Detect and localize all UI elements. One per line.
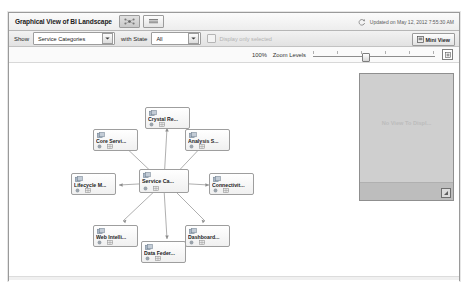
status-icon xyxy=(97,240,102,245)
graph-view-button[interactable] xyxy=(119,15,140,28)
grid-icon xyxy=(107,240,113,245)
grid-icon xyxy=(199,144,205,149)
graph-node-dashboards[interactable]: Dashboard... xyxy=(185,225,230,247)
fit-to-screen-icon xyxy=(445,52,451,58)
mini-view-empty-text: No View To Displ... xyxy=(360,120,453,126)
view-mode-buttons xyxy=(119,15,164,28)
status-bar xyxy=(9,276,459,280)
zoom-percent: 100% xyxy=(252,52,267,58)
status-icon xyxy=(75,188,80,193)
chevron-down-icon xyxy=(105,37,110,40)
chevron-down-icon xyxy=(191,37,196,40)
status-icon xyxy=(97,144,102,149)
graph-node-connectivity[interactable]: Connectivit... xyxy=(209,173,254,195)
graph-node-center-badges xyxy=(143,186,159,191)
graph-node-badges xyxy=(145,256,161,261)
graph-node-badges xyxy=(149,122,165,127)
grid-icon xyxy=(159,122,165,127)
zoom-slider[interactable] xyxy=(313,49,435,61)
graph-node-badges xyxy=(213,188,229,193)
grid-icon xyxy=(155,256,161,261)
graph-node-badges xyxy=(189,240,205,245)
page-title: Graphical View of BI Landscape xyxy=(15,18,112,25)
zoom-levels-label: Zoom Levels xyxy=(273,52,306,58)
status-icon xyxy=(145,256,150,261)
mini-view-panel[interactable]: No View To Displ... xyxy=(359,73,454,201)
zoom-slider-tick xyxy=(409,51,410,54)
titlebar-right-group: Updated on May 12, 2012 7:55:30 AM xyxy=(358,13,454,30)
list-view-button[interactable] xyxy=(143,15,164,28)
zoom-slider-thumb[interactable] xyxy=(362,53,370,62)
zoom-slider-track xyxy=(313,56,435,57)
graph-node-center[interactable]: Service Ca... xyxy=(139,169,189,193)
grid-icon xyxy=(199,240,205,245)
state-select[interactable]: All xyxy=(151,32,201,45)
status-icon xyxy=(189,240,194,245)
zoom-toolbar: 100% Zoom Levels xyxy=(9,47,459,63)
filter-toolbar: Show Service Categories with State All D… xyxy=(9,31,459,47)
graph-node-data-federator[interactable]: Data Feder... xyxy=(141,241,186,263)
show-label: Show xyxy=(14,36,29,42)
category-select-value: Service Categories xyxy=(34,36,102,42)
grid-icon xyxy=(85,188,91,193)
window-titlebar: Graphical View of BI Landscape xyxy=(9,13,459,31)
graph-node-badges xyxy=(189,144,205,149)
graph-node-crystal-reports[interactable]: Crystal Re... xyxy=(145,107,190,129)
last-updated-text: Updated on May 12, 2012 7:55:30 AM xyxy=(370,19,454,25)
category-select[interactable]: Service Categories xyxy=(33,32,115,45)
zoom-slider-tick xyxy=(313,51,314,54)
zoom-slider-tick xyxy=(337,51,338,54)
status-icon xyxy=(149,122,154,127)
graph-node-core-services[interactable]: Core Servi... xyxy=(93,129,138,151)
zoom-slider-tick xyxy=(385,51,386,54)
graph-node-badges xyxy=(97,240,113,245)
state-label: with State xyxy=(121,36,147,42)
mini-view-resize-handle[interactable] xyxy=(441,188,451,198)
graph-view-icon xyxy=(124,18,135,25)
graph-node-analysis-services[interactable]: Analysis S... xyxy=(185,129,230,151)
graph-node-badges xyxy=(75,188,91,193)
graph-node-badges xyxy=(97,144,113,149)
display-only-selected-group[interactable]: Display only selected xyxy=(207,34,272,43)
list-view-icon xyxy=(148,18,159,25)
graph-node-center-label: Service Ca... xyxy=(142,178,187,184)
display-only-selected-label: Display only selected xyxy=(219,36,272,42)
fit-to-screen-button[interactable] xyxy=(442,49,453,60)
mini-view-icon xyxy=(417,36,424,43)
mini-view-button-label: Mini View xyxy=(426,37,450,43)
category-select-arrow[interactable] xyxy=(102,33,113,44)
mini-view-footer xyxy=(360,182,453,200)
status-icon xyxy=(189,144,194,149)
grid-icon xyxy=(223,188,229,193)
status-icon xyxy=(213,188,218,193)
state-select-arrow[interactable] xyxy=(188,33,199,44)
resize-handle-icon xyxy=(443,190,449,196)
grid-icon xyxy=(153,186,159,191)
graph-node-lifecycle-management[interactable]: Lifecycle M... xyxy=(71,173,116,195)
mini-view-button[interactable]: Mini View xyxy=(412,33,455,46)
grid-icon xyxy=(107,144,113,149)
state-select-value: All xyxy=(152,36,188,42)
graph-canvas[interactable]: Service Ca... Crystal Re... xyxy=(9,63,459,283)
zoom-slider-tick xyxy=(433,51,434,54)
display-only-selected-checkbox[interactable] xyxy=(207,34,216,43)
graphical-view-window: Graphical View of BI Landscape xyxy=(8,12,460,281)
status-icon xyxy=(143,186,148,191)
refresh-icon[interactable] xyxy=(358,18,366,26)
graph-node-web-intelligence[interactable]: Web Intelli... xyxy=(93,225,138,247)
